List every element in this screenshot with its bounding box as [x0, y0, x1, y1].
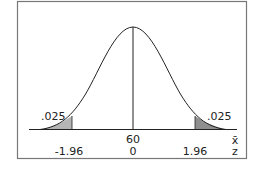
mean-z-label: 0	[130, 145, 137, 158]
left-critical-z-label: -1.96	[55, 145, 83, 158]
right-critical-z-label: 1.96	[183, 145, 208, 158]
z-axis-label: z	[232, 145, 238, 158]
normal-curve-diagram: .025 .025 60 0 -1.96 1.96 x̄ z	[0, 0, 261, 170]
left-tail-area-label: .025	[41, 110, 66, 123]
right-tail-area-label: .025	[207, 110, 232, 123]
